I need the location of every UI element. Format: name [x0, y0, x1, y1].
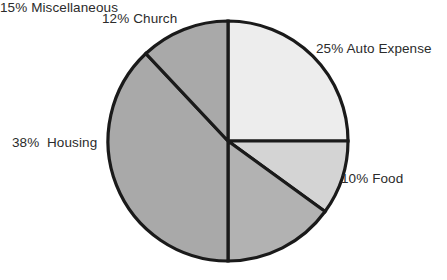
pie-label-food: 10% Food — [341, 171, 403, 187]
pie-slice-group — [108, 21, 348, 261]
pie-chart: 12% Church 25% Auto Expense 38% Housing … — [0, 0, 447, 280]
pie-label-housing: 38% Housing — [12, 135, 97, 151]
pie-label-auto-expense: 25% Auto Expense — [316, 41, 432, 57]
pie-slice-auto-expense — [228, 21, 348, 141]
pie-label-miscellaneous: 15% Miscellaneous — [0, 0, 118, 16]
